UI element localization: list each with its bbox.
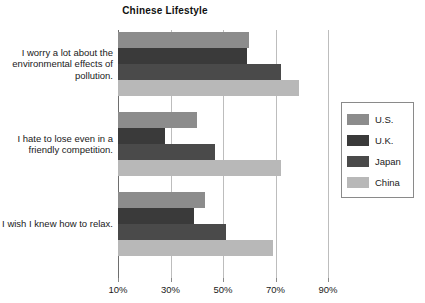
bar-uk[interactable] xyxy=(118,48,247,64)
legend-label: U.K. xyxy=(375,135,393,146)
x-tick-label: 30% xyxy=(161,284,180,295)
legend-swatch-icon xyxy=(347,156,369,167)
legend-label: U.S. xyxy=(375,114,393,125)
tick-mark-70 xyxy=(276,278,277,282)
bar-japan[interactable] xyxy=(118,64,281,80)
bar-group xyxy=(118,32,328,96)
chart-legend: U.S.U.K.JapanChina xyxy=(341,102,414,198)
bar-japan[interactable] xyxy=(118,224,226,240)
x-tick-label: 70% xyxy=(266,284,285,295)
bar-group xyxy=(118,192,328,256)
bar-us[interactable] xyxy=(118,192,205,208)
legend-item[interactable]: U.K. xyxy=(347,130,408,151)
tick-mark-90 xyxy=(328,278,329,282)
bar-china[interactable] xyxy=(118,80,299,96)
category-label: I wish I knew how to relax. xyxy=(0,218,113,230)
legend-label: Japan xyxy=(375,156,401,167)
legend-swatch-icon xyxy=(347,114,369,125)
plot-area xyxy=(118,30,328,278)
tick-mark-30 xyxy=(171,278,172,282)
bar-us[interactable] xyxy=(118,32,249,48)
legend-item[interactable]: Japan xyxy=(347,151,408,172)
tick-mark-10 xyxy=(118,278,119,282)
bar-japan[interactable] xyxy=(118,144,215,160)
legend-item[interactable]: China xyxy=(347,172,408,193)
x-tick-label: 10% xyxy=(108,284,127,295)
bar-china[interactable] xyxy=(118,240,273,256)
legend-label: China xyxy=(375,177,400,188)
category-label: I worry a lot about the environmental ef… xyxy=(0,47,113,82)
x-tick-label: 90% xyxy=(318,284,337,295)
tick-mark-50 xyxy=(223,278,224,282)
legend-item[interactable]: U.S. xyxy=(347,109,408,130)
legend-swatch-icon xyxy=(347,177,369,188)
chart-container: Chinese Lifestyle I worry a lot about th… xyxy=(0,0,425,303)
bar-uk[interactable] xyxy=(118,128,165,144)
category-label: I hate to lose even in a friendly compet… xyxy=(0,133,113,156)
bar-uk[interactable] xyxy=(118,208,194,224)
chart-title: Chinese Lifestyle xyxy=(0,5,330,16)
bar-china[interactable] xyxy=(118,160,281,176)
bar-us[interactable] xyxy=(118,112,197,128)
x-tick-label: 50% xyxy=(213,284,232,295)
legend-swatch-icon xyxy=(347,135,369,146)
gridline-90 xyxy=(328,30,329,278)
bar-group xyxy=(118,112,328,176)
